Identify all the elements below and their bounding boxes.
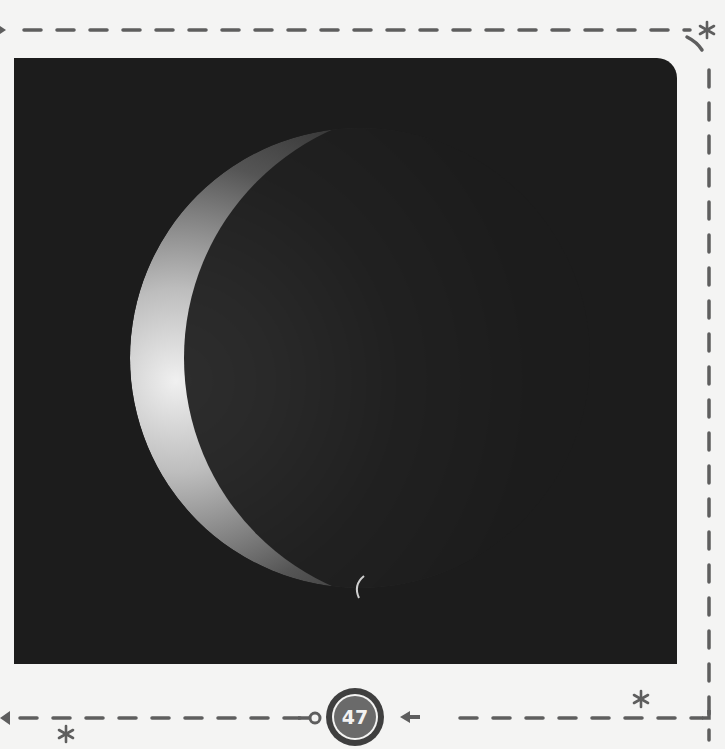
star-bottom-left-icon (59, 726, 73, 742)
arrow-left-edge-top-icon (0, 26, 6, 34)
arrow-pointing-to-badge-icon (400, 711, 420, 723)
star-bottom-right-icon (634, 691, 648, 707)
star-top-right-icon (700, 22, 714, 38)
arrow-left-edge-bottom-icon (0, 711, 10, 725)
connector-circle-icon (310, 713, 320, 723)
planet-photo (14, 58, 677, 664)
bottom-right-corner (702, 710, 709, 718)
page-number: 47 (325, 687, 385, 747)
corner-curve (687, 37, 702, 50)
page-number-badge: 47 (325, 687, 385, 747)
